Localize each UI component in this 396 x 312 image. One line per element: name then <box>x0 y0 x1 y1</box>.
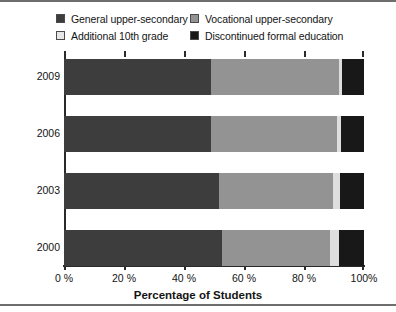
legend-swatch-icon <box>56 14 65 23</box>
bar-segment <box>219 173 333 209</box>
legend-swatch-icon <box>56 31 65 40</box>
y-axis-tick-label: 2003 <box>26 184 60 196</box>
legend-item-label: General upper-secondary <box>71 13 188 25</box>
bar-segment <box>64 116 211 152</box>
legend-item-label: Discontinued formal education <box>205 30 343 42</box>
bar-segment <box>333 173 341 209</box>
chart-legend: General upper-secondary Vocational upper… <box>56 10 376 44</box>
x-axis-tick-top <box>362 51 364 57</box>
legend-item-label: Vocational upper-secondary <box>205 13 333 25</box>
y-axis-tick-label: 2000 <box>26 241 60 253</box>
chart-figure: General upper-secondary Vocational upper… <box>0 0 396 312</box>
legend-item-label: Additional 10th grade <box>71 30 168 42</box>
stacked-bar <box>64 116 364 152</box>
bar-segment <box>341 116 364 152</box>
x-axis-title: Percentage of Students <box>0 289 396 301</box>
x-axis-tick-label: 60 % <box>232 272 256 284</box>
x-axis-tick-top <box>244 51 246 57</box>
stacked-bar <box>64 173 364 209</box>
legend-swatch-icon <box>190 14 199 23</box>
bar-segment <box>222 230 330 266</box>
bar-segment <box>340 173 364 209</box>
y-axis-tick-label: 2006 <box>26 127 60 139</box>
x-axis-tick-label: 0 % <box>55 272 73 284</box>
stacked-bar <box>64 230 364 266</box>
stacked-bar <box>64 59 364 95</box>
x-axis-tick-label: 80 % <box>292 272 316 284</box>
figure-bottom-rule <box>0 304 396 306</box>
bar-segment <box>330 230 339 266</box>
bar-segment <box>211 59 339 95</box>
legend-swatch-icon <box>190 31 199 40</box>
x-axis-tick-label: 40 % <box>172 272 196 284</box>
bar-segment <box>64 173 219 209</box>
x-axis-tick-label: 20 % <box>112 272 136 284</box>
bar-segment <box>342 59 364 95</box>
x-axis-tick-top <box>124 51 126 57</box>
legend-item-general-upper-secondary: General upper-secondary <box>56 13 190 25</box>
legend-item-additional-10th-grade: Additional 10th grade <box>56 30 190 42</box>
bar-segment <box>64 230 222 266</box>
y-axis-tick-label: 2009 <box>26 70 60 82</box>
bar-segment <box>64 59 211 95</box>
x-axis-tick-top <box>64 51 66 57</box>
x-axis-tick-top <box>184 51 186 57</box>
figure-top-rule <box>0 0 396 2</box>
bar-segment <box>339 230 365 266</box>
x-axis-tick-label: 100% <box>351 272 378 284</box>
bar-segment <box>211 116 337 152</box>
x-axis-tick-top <box>304 51 306 57</box>
legend-item-vocational-upper-secondary: Vocational upper-secondary <box>190 13 376 25</box>
legend-item-discontinued-formal-education: Discontinued formal education <box>190 30 376 42</box>
